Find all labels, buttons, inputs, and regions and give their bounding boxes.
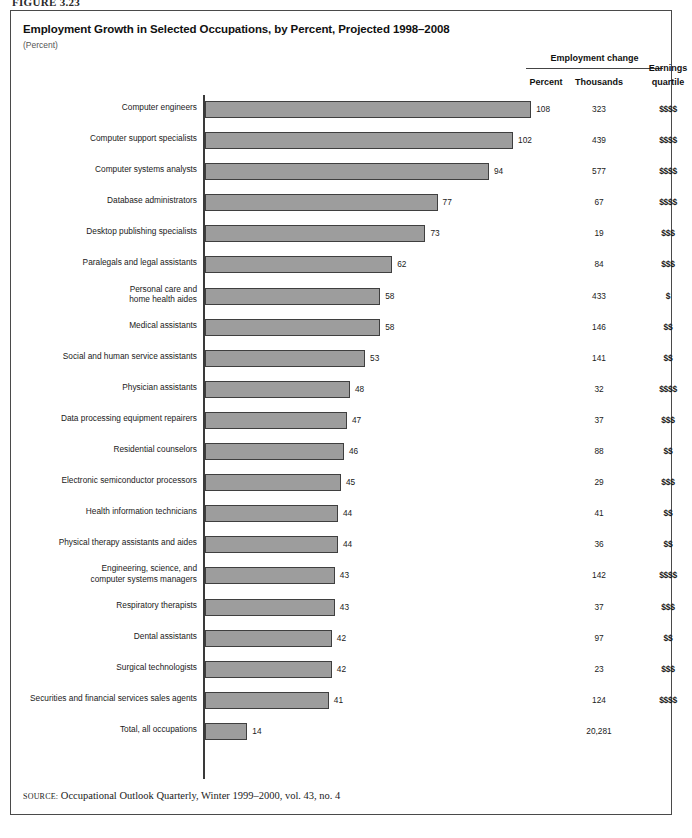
value-earnings-quartile: $$$$ xyxy=(639,384,692,394)
value-earnings-quartile: $$$$ xyxy=(639,166,692,176)
row-label: Securities and financial services sales … xyxy=(0,693,197,704)
bar xyxy=(205,443,344,460)
row-label: Health information technicians xyxy=(0,506,197,517)
value-thousands: 97 xyxy=(567,633,631,643)
value-thousands: 20,281 xyxy=(567,726,631,736)
bar xyxy=(205,256,392,273)
bar xyxy=(205,288,380,305)
figure-frame: Employment Growth in Selected Occupation… xyxy=(10,10,672,815)
source-label: SOURCE: xyxy=(23,792,58,801)
value-thousands: 37 xyxy=(567,602,631,612)
value-thousands: 67 xyxy=(567,197,631,207)
value-earnings-quartile: $$$$ xyxy=(639,570,692,580)
value-thousands: 577 xyxy=(567,166,631,176)
value-thousands: 323 xyxy=(567,104,631,114)
chart-row: Desktop publishing specialists7319$$$ xyxy=(11,219,692,250)
row-label: Electronic semiconductor processors xyxy=(0,475,197,486)
bar xyxy=(205,692,329,709)
value-earnings-quartile: $$$$ xyxy=(639,695,692,705)
value-earnings-quartile: $$$ xyxy=(639,228,692,238)
bar-value-percent: 42 xyxy=(337,633,346,643)
bar xyxy=(205,599,335,616)
row-label: Respiratory therapists xyxy=(0,600,197,611)
bar xyxy=(205,567,335,584)
page-title: Employment Growth in Selected Occupation… xyxy=(23,23,450,35)
bar-value-percent: 53 xyxy=(370,353,379,363)
value-earnings-quartile: $$$$ xyxy=(639,135,692,145)
row-label: Data processing equipment repairers xyxy=(0,413,197,424)
row-label: Desktop publishing specialists xyxy=(0,226,197,237)
bar-value-percent: 94 xyxy=(494,166,503,176)
value-thousands: 142 xyxy=(567,570,631,580)
chart-row: Physician assistants4832$$$$ xyxy=(11,375,692,406)
chart-row: Respiratory therapists4337$$$ xyxy=(11,593,692,624)
value-earnings-quartile: $$ xyxy=(639,353,692,363)
chart-row: Securities and financial services sales … xyxy=(11,686,692,717)
bar-value-percent: 44 xyxy=(343,508,352,518)
row-label: Dental assistants xyxy=(0,631,197,642)
value-earnings-quartile: $$ xyxy=(639,446,692,456)
chart-row: Computer support specialists102439$$$$ xyxy=(11,126,692,157)
bar xyxy=(205,132,513,149)
row-label: Physical therapy assistants and aides xyxy=(0,537,197,548)
bar xyxy=(205,474,341,491)
bar xyxy=(205,505,338,522)
value-earnings-quartile: $$$ xyxy=(639,664,692,674)
row-label: Social and human service assistants xyxy=(0,351,197,362)
bar-value-percent: 42 xyxy=(337,664,346,674)
value-earnings-quartile: $$$ xyxy=(639,602,692,612)
value-thousands: 19 xyxy=(567,228,631,238)
chart-row: Health information technicians4441$$ xyxy=(11,499,692,530)
value-thousands: 84 xyxy=(567,259,631,269)
row-label: Total, all occupations xyxy=(0,724,197,735)
source-note: SOURCE: Occupational Outlook Quarterly, … xyxy=(23,790,340,801)
value-thousands: 41 xyxy=(567,508,631,518)
row-label: Paralegals and legal assistants xyxy=(0,257,197,268)
chart-row: Dental assistants4297$$ xyxy=(11,624,692,655)
chart-rows: Computer engineers108323$$$$Computer sup… xyxy=(11,95,692,748)
row-label: Personal care andhome health aides xyxy=(0,284,197,305)
chart-row: Physical therapy assistants and aides443… xyxy=(11,530,692,561)
row-label: Surgical technologists xyxy=(0,662,197,673)
column-header-thousands: Thousands xyxy=(567,77,631,87)
bar xyxy=(205,630,332,647)
value-thousands: 124 xyxy=(567,695,631,705)
value-thousands: 29 xyxy=(567,477,631,487)
units-subtitle: (Percent) xyxy=(23,40,58,50)
bar-value-percent: 46 xyxy=(349,446,358,456)
value-thousands: 88 xyxy=(567,446,631,456)
value-earnings-quartile: $$$$ xyxy=(639,104,692,114)
chart-row: Paralegals and legal assistants6284$$$ xyxy=(11,250,692,281)
chart-row: Personal care andhome health aides58433$ xyxy=(11,282,692,313)
bar-value-percent: 43 xyxy=(340,602,349,612)
figure-caption: FIGURE 3.23 xyxy=(12,0,80,8)
value-thousands: 36 xyxy=(567,539,631,549)
value-earnings-quartile: $ xyxy=(639,291,692,301)
value-earnings-quartile: $$$ xyxy=(639,477,692,487)
value-earnings-quartile: $$ xyxy=(639,539,692,549)
bar-value-percent: 58 xyxy=(385,322,394,332)
bar xyxy=(205,350,365,367)
bar-value-percent: 48 xyxy=(355,384,364,394)
column-header-earnings: Earnings xyxy=(639,63,692,73)
value-thousands: 146 xyxy=(567,322,631,332)
chart-row: Database administrators7767$$$$ xyxy=(11,188,692,219)
bar-value-percent: 41 xyxy=(334,695,343,705)
row-label: Residential counselors xyxy=(0,444,197,455)
value-earnings-quartile: $$ xyxy=(639,508,692,518)
bar-value-percent: 44 xyxy=(343,539,352,549)
value-earnings-quartile: $$$$ xyxy=(639,197,692,207)
value-earnings-quartile: $$ xyxy=(639,322,692,332)
bar-value-percent: 77 xyxy=(443,197,452,207)
chart-row: Medical assistants58146$$ xyxy=(11,313,692,344)
chart-row: Data processing equipment repairers4737$… xyxy=(11,406,692,437)
bar-value-percent: 73 xyxy=(430,228,439,238)
value-thousands: 141 xyxy=(567,353,631,363)
bar-value-percent: 47 xyxy=(352,415,361,425)
chart-row: Engineering, science, andcomputer system… xyxy=(11,561,692,592)
bar-value-percent: 14 xyxy=(252,726,261,736)
chart-row: Computer systems analysts94577$$$$ xyxy=(11,157,692,188)
bar xyxy=(205,661,332,678)
bar xyxy=(205,536,338,553)
value-earnings-quartile: $$ xyxy=(639,633,692,643)
